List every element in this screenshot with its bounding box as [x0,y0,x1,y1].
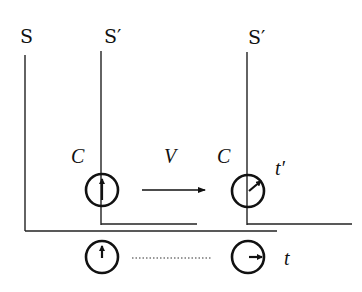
frame-s: S [20,25,277,231]
frame-s-prime-initial: S′ [101,25,197,225]
clock-c-left-label: C [71,145,85,167]
moving-clock-initial-icon [86,174,118,206]
frame-s-prime-initial-label: S′ [104,25,121,47]
rest-clock-later-icon [232,241,264,273]
frame-s-prime-moved-label: S′ [248,26,265,48]
rest-time-label: t [284,247,290,269]
velocity-label: V [164,145,179,167]
rest-clock-initial-icon [86,241,118,273]
frame-s-label: S [20,25,33,47]
moving-time-label: t′ [275,157,286,179]
clock-c-right-label: C [217,145,231,167]
moving-clock-later-icon [232,175,264,207]
relativity-diagram: S S′ S′ C V C t′ t [0,0,362,292]
